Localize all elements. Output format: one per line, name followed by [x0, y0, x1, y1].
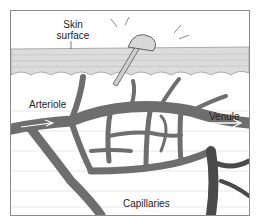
label-skin-surface: Skin surface	[55, 19, 91, 41]
illustration-frame: Skin surface Arteriole Venule Capillarie…	[10, 10, 250, 216]
label-skin-line2: surface	[55, 30, 91, 41]
capillary-network	[11, 77, 249, 215]
label-capillaries: Capillaries	[123, 198, 170, 209]
label-arteriole: Arteriole	[29, 99, 66, 110]
label-venule: Venule	[209, 111, 240, 122]
label-skin-line1: Skin	[55, 19, 91, 30]
